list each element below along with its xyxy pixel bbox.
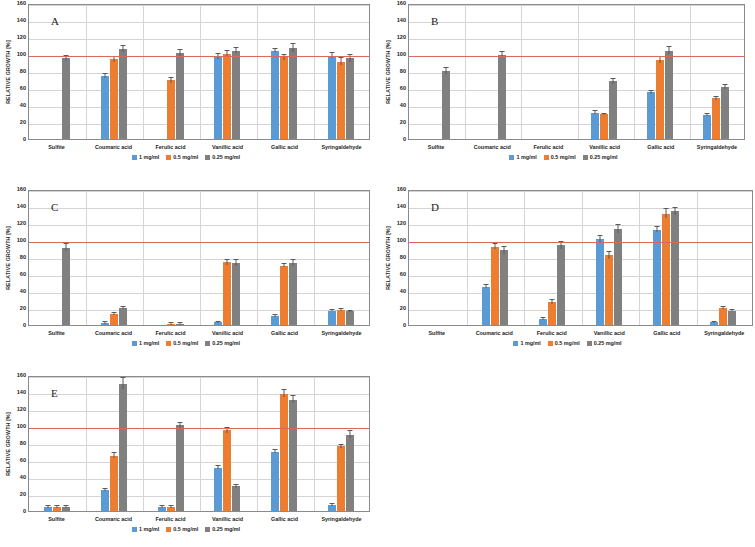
bar bbox=[232, 51, 240, 139]
error-bar bbox=[179, 323, 180, 325]
error-bar bbox=[236, 485, 237, 488]
bar bbox=[609, 81, 617, 139]
bar-slot bbox=[271, 377, 280, 511]
bar-slot bbox=[544, 5, 553, 139]
bar-slot bbox=[110, 191, 119, 325]
error-bar bbox=[284, 264, 285, 267]
y-tick-label: 20 bbox=[20, 120, 26, 126]
error-bar-cap-top bbox=[492, 243, 497, 244]
error-bar-cap-top bbox=[723, 84, 728, 85]
bar bbox=[62, 58, 70, 139]
y-tick-label: 120 bbox=[397, 221, 406, 227]
bar bbox=[337, 446, 345, 511]
y-tick-label: 0 bbox=[23, 509, 26, 515]
error-bar-cap-top bbox=[64, 505, 69, 506]
bar-slot bbox=[214, 377, 223, 511]
legend-item: 0.5 mg/ml bbox=[544, 154, 576, 160]
error-bar-cap-top bbox=[616, 224, 621, 225]
error-bar-cap-top bbox=[598, 235, 603, 236]
bar-group bbox=[521, 5, 577, 139]
legend-swatch-icon bbox=[166, 341, 171, 346]
error-bar-cap-top bbox=[121, 45, 126, 46]
error-bar-cap-top bbox=[714, 96, 719, 97]
y-tick-label: 120 bbox=[17, 35, 26, 41]
error-bar-cap-top bbox=[234, 259, 239, 260]
error-bar bbox=[275, 315, 276, 317]
chart-panel-d: RELATIVE GROWTH [%]020406080100120140160… bbox=[380, 190, 755, 358]
y-tick-label: 60 bbox=[20, 458, 26, 464]
error-bar-cap-top bbox=[593, 110, 598, 111]
y-tick-label: 0 bbox=[403, 137, 406, 143]
error-bar bbox=[732, 310, 733, 312]
legend-label: 0.25 mg/ml bbox=[212, 340, 240, 346]
legend-item: 1 mg/ml bbox=[509, 154, 536, 160]
x-tick-label: Vanillic acid bbox=[199, 513, 256, 525]
y-tick-label: 160 bbox=[397, 187, 406, 193]
y-tick-label: 80 bbox=[400, 255, 406, 261]
x-tick-label: Sulfite bbox=[28, 327, 85, 339]
x-tick-label: Vanillic acid bbox=[199, 327, 256, 339]
error-bar-cap-top bbox=[549, 299, 554, 300]
bar-group bbox=[256, 191, 313, 325]
error-bar bbox=[604, 114, 605, 116]
bar-slot bbox=[653, 191, 662, 325]
error-bar-cap-top bbox=[607, 251, 612, 252]
bar bbox=[653, 230, 661, 325]
legend-label: 0.5 mg/ml bbox=[173, 340, 198, 346]
error-bar bbox=[284, 390, 285, 397]
bar-slot bbox=[289, 5, 298, 139]
bar-slot bbox=[166, 377, 175, 511]
bar-group bbox=[199, 5, 256, 139]
error-bar bbox=[669, 47, 670, 54]
bar-group bbox=[688, 5, 744, 139]
bar-slot bbox=[481, 191, 490, 325]
y-tick-label: 40 bbox=[20, 289, 26, 295]
error-bar-cap-top bbox=[730, 309, 735, 310]
bar-groups bbox=[29, 5, 369, 139]
y-tick-label: 80 bbox=[20, 69, 26, 75]
bar-group bbox=[638, 191, 695, 325]
plot-area: B bbox=[408, 4, 745, 140]
bar-slot bbox=[223, 191, 232, 325]
bar-slot bbox=[175, 377, 184, 511]
error-bar-cap-top bbox=[103, 321, 108, 322]
bar-slot bbox=[336, 191, 345, 325]
bar-slot bbox=[556, 191, 565, 325]
error-bar-cap-top bbox=[338, 444, 343, 445]
reference-line-100-percent bbox=[409, 56, 744, 57]
bar-slot bbox=[62, 191, 71, 325]
bar-slot bbox=[600, 5, 609, 139]
y-tick-label: 160 bbox=[397, 1, 406, 7]
y-axis-ticks: 020406080100120140160 bbox=[12, 4, 27, 140]
bar-slot bbox=[166, 191, 175, 325]
bar-slot bbox=[232, 377, 241, 511]
error-bar bbox=[542, 318, 543, 320]
bar bbox=[176, 53, 184, 139]
y-tick-label: 60 bbox=[400, 272, 406, 278]
panel-letter: C bbox=[51, 201, 58, 213]
bar bbox=[280, 266, 288, 326]
legend-item: 1 mg/ml bbox=[132, 340, 159, 346]
bar bbox=[119, 49, 127, 139]
x-tick-label: Gallic acid bbox=[256, 513, 313, 525]
y-tick-label: 60 bbox=[400, 86, 406, 92]
error-bar-cap-top bbox=[443, 67, 448, 68]
error-bar-cap-top bbox=[121, 377, 126, 378]
x-tick-label: Vanillic acid bbox=[577, 141, 633, 153]
legend: 1 mg/ml0.5 mg/ml0.25 mg/ml bbox=[0, 154, 372, 160]
error-bar bbox=[161, 506, 162, 508]
bar-group bbox=[142, 5, 199, 139]
bar bbox=[346, 311, 354, 325]
x-tick-label: Coumaric acid bbox=[464, 141, 520, 153]
legend-item: 0.5 mg/ml bbox=[548, 340, 580, 346]
bar-slot bbox=[596, 191, 605, 325]
error-bar-cap-top bbox=[329, 52, 334, 53]
error-bar bbox=[331, 310, 332, 312]
error-bar bbox=[613, 79, 614, 84]
bar-slot bbox=[119, 377, 128, 511]
bar bbox=[662, 214, 670, 325]
x-tick-label: Ferulic acid bbox=[142, 141, 199, 153]
bar bbox=[500, 250, 508, 325]
error-bar bbox=[66, 244, 67, 251]
bar-slot bbox=[345, 5, 354, 139]
